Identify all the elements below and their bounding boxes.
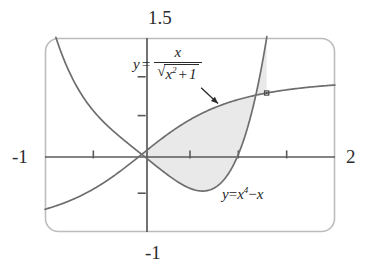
radicand-tail: 1 bbox=[189, 66, 197, 82]
plot-canvas bbox=[0, 0, 374, 279]
sigmoid-fraction: x √ x2+1 bbox=[154, 45, 201, 83]
y-max-label: 1.5 bbox=[148, 8, 172, 27]
quartic-lhs: y bbox=[222, 186, 229, 202]
quartic-base: x bbox=[237, 186, 244, 202]
quartic-equals: = bbox=[229, 186, 237, 202]
radicand-exponent: 2 bbox=[172, 65, 177, 75]
graph-figure: 1.5 -1 2 -1 y = x √ x2+1 y=x4−x bbox=[0, 0, 374, 279]
x-max-label: 2 bbox=[346, 147, 356, 166]
x-min-label: -1 bbox=[12, 147, 28, 166]
sigmoid-numerator: x bbox=[168, 45, 187, 62]
sigmoid-lhs: y bbox=[133, 56, 140, 73]
quartic-equation-label: y=x4−x bbox=[222, 186, 263, 203]
radicand-plus: + bbox=[177, 66, 189, 82]
quartic-tail: x bbox=[257, 186, 264, 202]
quartic-minus: − bbox=[248, 186, 256, 202]
radicand: x2+1 bbox=[164, 64, 198, 83]
radical-icon: √ x2+1 bbox=[157, 64, 198, 83]
arrow-icon bbox=[201, 88, 218, 104]
sigmoid-equation-label: y = x √ x2+1 bbox=[133, 45, 202, 83]
y-min-label: -1 bbox=[145, 243, 161, 262]
sigmoid-denominator: √ x2+1 bbox=[154, 63, 201, 83]
sigmoid-equals: = bbox=[142, 56, 150, 73]
